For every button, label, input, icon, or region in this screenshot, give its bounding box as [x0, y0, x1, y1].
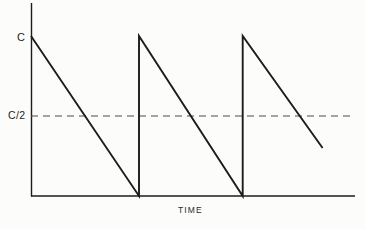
y-axis-label-c-half: C/2: [8, 109, 26, 121]
x-axis-label-time: TIME: [178, 205, 203, 215]
sawtooth-plot: [0, 0, 366, 229]
chart-figure: C C/2 TIME: [0, 0, 366, 229]
y-axis-label-c: C: [17, 31, 25, 43]
